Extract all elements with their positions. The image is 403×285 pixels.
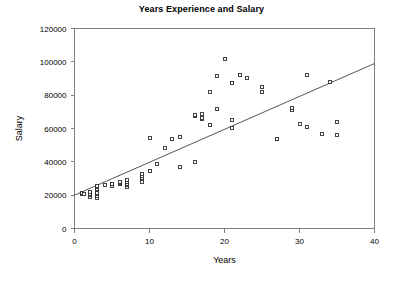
- data-point: [231, 119, 234, 122]
- data-point: [216, 75, 219, 78]
- data-point: [178, 135, 181, 138]
- data-point: [276, 137, 279, 140]
- data-point: [208, 90, 211, 93]
- data-point: [88, 190, 91, 193]
- y-tick-label: 80000: [44, 91, 67, 100]
- y-axis-tick-labels: 020000400006000080000100000120000: [40, 25, 67, 234]
- data-point: [118, 180, 121, 183]
- data-point: [321, 132, 324, 135]
- y-tick-label: 60000: [44, 125, 67, 134]
- x-axis-tick-marks: [75, 229, 375, 233]
- data-point-markers: [81, 58, 339, 199]
- x-axis-title: Years: [213, 255, 236, 265]
- y-tick-label: 100000: [40, 58, 67, 67]
- x-tick-label: 10: [145, 237, 154, 246]
- data-point: [336, 134, 339, 137]
- data-point: [156, 163, 159, 166]
- x-tick-label: 40: [370, 237, 379, 246]
- data-point: [216, 107, 219, 110]
- y-tick-label: 40000: [44, 158, 67, 167]
- data-point: [231, 126, 234, 129]
- data-point: [178, 165, 181, 168]
- data-point: [238, 74, 241, 77]
- data-point: [291, 106, 294, 109]
- data-point: [141, 173, 144, 176]
- data-point: [306, 74, 309, 77]
- data-point: [148, 170, 151, 173]
- x-axis-tick-labels: 010203040: [72, 237, 379, 246]
- data-point: [208, 124, 211, 127]
- data-point: [126, 179, 129, 182]
- x-tick-label: 20: [220, 237, 229, 246]
- data-point: [328, 80, 331, 83]
- data-point: [246, 76, 249, 79]
- data-point: [306, 125, 309, 128]
- y-axis-title: Salary: [14, 115, 24, 141]
- data-point: [103, 184, 106, 187]
- chart-figure: Years Experience and Salary 020000400006…: [0, 0, 403, 285]
- data-point: [111, 182, 114, 185]
- data-point: [223, 58, 226, 61]
- data-point: [163, 146, 166, 149]
- x-tick-label: 0: [72, 237, 77, 246]
- data-point: [261, 85, 264, 88]
- data-point: [96, 185, 99, 188]
- y-axis-tick-marks: [71, 29, 75, 229]
- data-point: [201, 116, 204, 119]
- data-point: [193, 114, 196, 117]
- data-point: [148, 136, 151, 139]
- data-point: [336, 120, 339, 123]
- data-point: [298, 122, 301, 125]
- y-tick-label: 120000: [40, 25, 67, 34]
- y-tick-label: 20000: [44, 191, 67, 200]
- data-point: [261, 90, 264, 93]
- data-point: [201, 112, 204, 115]
- x-tick-label: 30: [295, 237, 304, 246]
- y-tick-label: 0: [62, 225, 67, 234]
- scatter-plot: 020000400006000080000100000120000 010203…: [0, 0, 403, 285]
- data-point: [171, 138, 174, 141]
- data-point: [231, 81, 234, 84]
- data-point: [193, 160, 196, 163]
- data-point: [82, 193, 85, 196]
